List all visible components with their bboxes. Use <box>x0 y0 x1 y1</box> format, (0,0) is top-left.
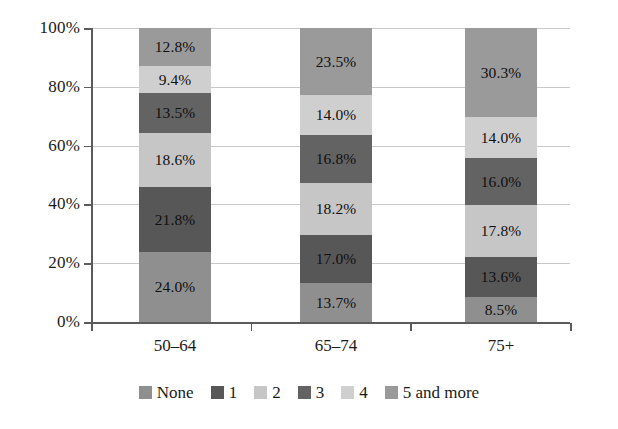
bar-segment-value: 12.8% <box>155 39 196 55</box>
bar-segment-value: 9.4% <box>159 72 192 88</box>
bar-segment: 24.0% <box>139 252 211 322</box>
x-tick-mark <box>91 323 93 331</box>
bar-segment: 13.7% <box>300 283 372 322</box>
bar-segment: 8.5% <box>465 297 537 322</box>
bar-segment-value: 21.8% <box>155 212 196 228</box>
bar-segment-value: 24.0% <box>155 279 196 295</box>
legend-item[interactable]: 2 <box>254 384 281 401</box>
bar-segment: 18.6% <box>139 133 211 188</box>
legend-swatch-icon <box>254 386 267 399</box>
bar-segment-value: 13.6% <box>481 269 522 285</box>
legend-swatch-icon <box>211 386 224 399</box>
bar-segment: 17.0% <box>300 235 372 283</box>
bar-column: 13.7%17.0%18.2%16.8%14.0%23.5% <box>300 28 372 322</box>
bar-segment: 17.8% <box>465 205 537 257</box>
bar-segment-value: 13.7% <box>316 295 357 311</box>
legend-label: None <box>157 384 194 401</box>
bar-segment-value: 16.8% <box>316 151 357 167</box>
x-tick-mark <box>570 323 572 331</box>
legend-swatch-icon <box>139 386 152 399</box>
bar-column: 8.5%13.6%17.8%16.0%14.0%30.3% <box>465 28 537 322</box>
bar-segment-value: 18.6% <box>155 152 196 168</box>
y-tick-mark <box>84 322 91 324</box>
legend-swatch-icon <box>341 386 354 399</box>
legend-item[interactable]: 5 and more <box>385 384 479 401</box>
bar-segment: 13.6% <box>465 257 537 297</box>
legend-label: 3 <box>316 384 325 401</box>
gridline-0 <box>91 322 570 324</box>
legend-item[interactable]: 1 <box>211 384 238 401</box>
bar-segment: 21.8% <box>139 187 211 251</box>
bar-segment-value: 30.3% <box>481 65 522 81</box>
bar-segment: 14.0% <box>465 117 537 158</box>
bar-segment: 14.0% <box>300 95 372 135</box>
bar-segment-value: 17.0% <box>316 251 357 267</box>
legend-label: 1 <box>229 384 238 401</box>
bar-segment: 16.8% <box>300 135 372 183</box>
bar-segment: 13.5% <box>139 93 211 133</box>
chart-legend: None12345 and more <box>0 384 618 401</box>
y-tick-mark <box>84 28 91 30</box>
x-axis-label: 65–74 <box>271 336 401 356</box>
legend-label: 2 <box>272 384 281 401</box>
y-axis-label: 0% <box>10 313 80 330</box>
stacked-bar-chart: 100%80%60%40%20%0% 24.0%21.8%18.6%13.5%9… <box>0 0 618 429</box>
bar-segment: 9.4% <box>139 66 211 94</box>
legend-item[interactable]: 4 <box>341 384 368 401</box>
legend-item[interactable]: None <box>139 384 194 401</box>
bar-segment: 18.2% <box>300 183 372 235</box>
y-axis-label: 60% <box>10 137 80 154</box>
legend-swatch-icon <box>385 386 398 399</box>
y-axis-label: 100% <box>10 19 80 36</box>
bar-segment-value: 14.0% <box>316 107 357 123</box>
bar-segment-value: 17.8% <box>481 223 522 239</box>
y-tick-mark <box>84 146 91 148</box>
y-axis-label: 20% <box>10 254 80 271</box>
x-tick-mark <box>410 323 412 331</box>
legend-label: 5 and more <box>403 384 479 401</box>
bar-segment-value: 23.5% <box>316 54 357 70</box>
y-axis-line <box>91 28 93 323</box>
bar-segment: 16.0% <box>465 158 537 205</box>
y-axis-label: 80% <box>10 78 80 95</box>
legend-swatch-icon <box>298 386 311 399</box>
legend-item[interactable]: 3 <box>298 384 325 401</box>
bar-segment: 23.5% <box>300 28 372 95</box>
x-tick-mark <box>251 323 253 331</box>
bar-segment-value: 16.0% <box>481 174 522 190</box>
legend-label: 4 <box>359 384 368 401</box>
bar-segment: 30.3% <box>465 28 537 117</box>
x-axis-label: 50–64 <box>110 336 240 356</box>
bar-segment-value: 14.0% <box>481 130 522 146</box>
x-axis-label: 75+ <box>436 336 566 356</box>
bar-segment-value: 8.5% <box>485 302 518 318</box>
bar-segment: 12.8% <box>139 28 211 66</box>
y-axis-label: 40% <box>10 195 80 212</box>
y-tick-mark <box>84 263 91 265</box>
y-tick-mark <box>84 204 91 206</box>
bar-column: 24.0%21.8%18.6%13.5%9.4%12.8% <box>139 28 211 322</box>
bar-segment-value: 13.5% <box>155 105 196 121</box>
y-tick-mark <box>84 87 91 89</box>
bar-segment-value: 18.2% <box>316 201 357 217</box>
